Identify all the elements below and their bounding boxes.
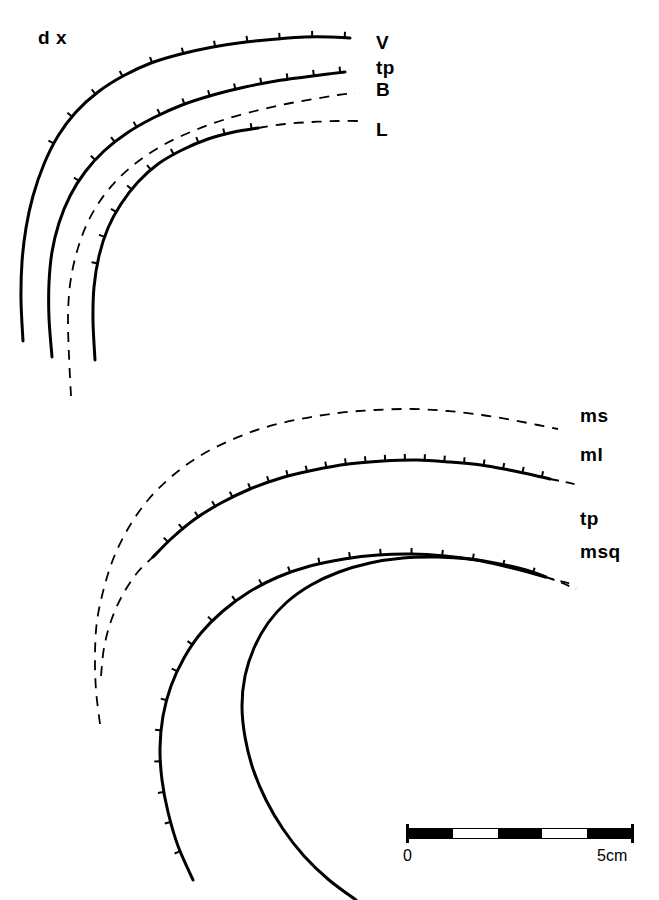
curve-upper-tp-tick <box>260 78 261 85</box>
curve-upper-v-tick <box>247 36 248 43</box>
curve-lower-ml-tick <box>444 456 445 463</box>
scale-bar-min-label: 0 <box>403 848 412 864</box>
curve-label-ms: ms <box>580 406 608 425</box>
curve-label-msq: msq <box>580 542 621 561</box>
scale-bar-segments <box>407 828 633 839</box>
scale-bar-max-label: 5cm <box>597 848 627 864</box>
upper-panel-curves <box>21 31 360 396</box>
curve-lower-tp-tick <box>155 730 162 731</box>
curve-lower-ml-tail-dashed <box>550 479 578 485</box>
curve-lower-ml-tick <box>522 467 523 474</box>
scale-bar-segment <box>408 829 453 838</box>
curve-lower-ml-tick <box>365 456 366 463</box>
curve-label-tp-upper: tp <box>376 58 395 77</box>
curve-lower-ml-solid <box>153 460 550 557</box>
curve-upper-tp-tick <box>340 67 341 74</box>
curve-upper-tp-tick <box>313 70 314 77</box>
curve-lower-ml-tick <box>484 459 485 466</box>
morphometric-figure: d x V tp B L ms ml tp msq 0 5cm <box>0 0 659 900</box>
curve-lower-msq-tail-dashed <box>546 577 576 589</box>
lower-panel-curves <box>95 409 578 900</box>
curve-label-ml: ml <box>580 445 603 464</box>
scale-bar-segment <box>542 829 587 838</box>
curve-upper-l-tick <box>251 123 252 130</box>
curve-upper-v-tick <box>279 33 280 40</box>
curve-upper-l-solid <box>93 128 258 360</box>
curve-label-tp-lower: tp <box>580 509 599 528</box>
curve-lower-ml-tick <box>464 457 465 464</box>
curve-lower-tp-tick <box>349 552 350 559</box>
curve-label-v: V <box>376 33 389 52</box>
curve-upper-l-dashed <box>258 121 360 128</box>
curve-lower-ml-tick <box>503 463 504 470</box>
scale-bar-segment <box>453 829 498 838</box>
curve-lower-ml-lead-dashed <box>101 557 153 676</box>
curve-lower-tp-tick <box>158 792 165 793</box>
scale-bar-cap-right <box>631 824 634 843</box>
curve-lower-ml-tick <box>325 462 326 469</box>
panel-side-label: d x <box>38 28 67 47</box>
curve-label-b: B <box>376 80 390 99</box>
curve-lower-ms <box>95 409 558 724</box>
curve-upper-v <box>21 37 350 341</box>
curve-label-l: L <box>376 120 388 139</box>
scale-bar-segment <box>587 829 632 838</box>
curve-upper-v-tick <box>214 41 215 48</box>
scale-bar <box>407 828 633 839</box>
curve-upper-l-tick <box>92 262 99 263</box>
curve-upper-tp-tick <box>287 73 288 80</box>
curve-lower-ml-tick <box>345 458 346 465</box>
curve-lower-msq-solid <box>242 557 546 900</box>
curve-canvas <box>0 0 659 900</box>
scale-bar-cap-left <box>406 824 409 843</box>
scale-bar-segment <box>498 829 543 838</box>
